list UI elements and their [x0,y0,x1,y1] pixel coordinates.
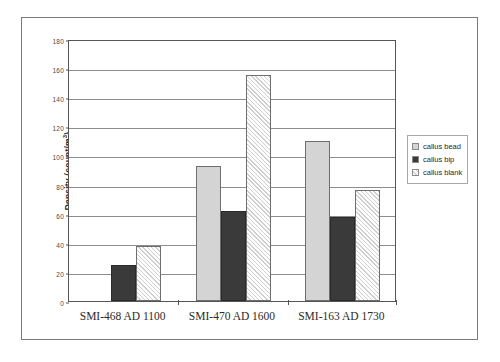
y-axis-tick-label: 20 [56,270,64,277]
bar-callus-blank-2 [355,190,380,301]
legend-label: callus bead [423,142,461,151]
plot-area: 020406080100120140160180 [68,40,396,302]
legend-item-callus-bead[interactable]: callus bead [412,140,462,153]
x-axis-labels: SMI-468 AD 1100SMI-470 AD 1600SMI-163 AD… [68,310,396,330]
x-axis-tick-mark [288,300,289,305]
bar-callus-bead-2 [305,141,330,301]
y-axis-tick-label: 140 [53,96,64,103]
legend-swatch-icon-diagonal-hatch-fill [412,169,419,176]
bar-callus-bead-1 [196,166,221,301]
y-axis-tick-label: 120 [53,125,64,132]
x-axis-label-0: SMI-468 AD 1100 [68,310,177,330]
bar-callus-blank-0 [136,246,161,301]
bar-callus-bip-2 [330,217,355,301]
bar-callus-bip-0 [111,265,136,301]
legend-label: callus blank [423,168,462,177]
legend-swatch-icon-light-gray-fill [412,143,419,150]
legend-item-callus-bip[interactable]: callus bip [412,153,462,166]
chart-legend: callus beadcallus bipcallus blank [407,135,468,184]
bar-callus-blank-1 [246,75,271,301]
x-axis-tick-mark [178,300,179,305]
figure-frame: Density (count/m3) 020406080100120140160… [21,17,478,340]
x-axis-label-1: SMI-470 AD 1600 [177,310,286,330]
legend-item-callus-blank[interactable]: callus blank [412,166,462,179]
x-axis-label-2: SMI-163 AD 1730 [287,310,396,330]
chart-canvas: Density (count/m3) 020406080100120140160… [22,18,479,341]
y-axis-tick-label: 180 [53,38,64,45]
y-axis-tick-label: 80 [56,183,64,190]
y-axis-tick-label: 100 [53,154,64,161]
bar-callus-bip-1 [221,211,246,301]
y-axis-tick-label: 160 [53,67,64,74]
bars-layer [69,41,395,301]
y-axis-tick-label: 0 [60,300,64,307]
y-axis-tick-label: 40 [56,241,64,248]
y-axis-tick-label: 60 [56,212,64,219]
legend-swatch-icon-dark-solid-fill [412,156,419,163]
y-axis-tick-mark [66,303,69,304]
x-axis-tick-mark [396,300,397,305]
legend-label: callus bip [423,155,454,164]
